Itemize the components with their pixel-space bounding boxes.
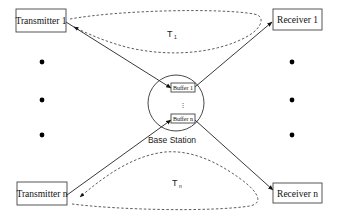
transmitter-ellipsis-dots [40, 60, 45, 138]
transmitter-n-node: Transmitter n [16, 182, 67, 205]
ellipsis-dot [290, 133, 295, 138]
ellipsis-dot [40, 133, 45, 138]
buffer-1-label: Buffer 1 [173, 85, 193, 91]
receiver-n-label: Receiver n [277, 189, 318, 199]
ellipsis-dot [40, 60, 45, 65]
arrow-buffer1-to-receiver1 [195, 22, 272, 87]
ellipsis-dot [40, 98, 45, 103]
arrow-buffern-to-receivern [195, 120, 273, 190]
receiver-n-node: Receiver n [273, 183, 322, 203]
base-station-label: Base Station [148, 135, 196, 145]
cycle-t1-label: T 1 [167, 29, 177, 40]
network-diagram: Buffer 1 ⋮ Buffer n Base Station T 1 T n… [0, 0, 345, 219]
buffer-1: Buffer 1 [171, 83, 195, 92]
buffer-n-label: Buffer n [173, 116, 193, 122]
cycle-t1-main: T [167, 29, 173, 39]
buffer-ellipsis: ⋮ [180, 102, 186, 108]
cycle-t1-loop [70, 11, 261, 53]
buffer-n: Buffer n [171, 114, 195, 123]
cycle-t1-sub: 1 [174, 34, 177, 40]
cycle-tn-sub: n [179, 183, 182, 189]
cycle-tn-loop [72, 152, 258, 210]
ellipsis-dot [290, 60, 295, 65]
arrow-transmittern-to-buffern [67, 120, 171, 195]
ellipsis-dot [290, 98, 295, 103]
receiver-1-node: Receiver 1 [273, 9, 322, 30]
cycle-tn-label: T n [172, 178, 182, 189]
transmitter-1-label: Transmitter 1 [15, 16, 66, 26]
transmitter-1-node: Transmitter 1 [15, 9, 66, 32]
cycle-tn-main: T [172, 178, 178, 188]
transmitter-n-label: Transmitter n [16, 189, 67, 199]
receiver-ellipsis-dots [290, 60, 295, 138]
arrow-transmitter1-to-buffer1 [66, 22, 171, 88]
receiver-1-label: Receiver 1 [277, 15, 318, 25]
